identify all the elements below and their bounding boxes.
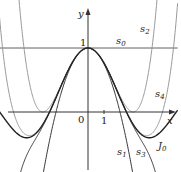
label-s2: s2	[140, 23, 150, 36]
bessel-partial-sums-chart: y x 0 1 1 s0 s2 s4 s1 s3 J0	[0, 0, 181, 172]
y-axis-arrow-icon	[86, 8, 91, 15]
label-s0: s0	[116, 35, 126, 48]
x-tick-label-1: 1	[101, 115, 107, 126]
label-s3: s3	[136, 146, 146, 159]
y-axis-label: y	[77, 8, 84, 19]
label-J0: J0	[156, 140, 167, 153]
label-s1: s1	[117, 146, 127, 159]
curves-group	[0, 0, 178, 172]
curve-J0	[0, 48, 178, 138]
x-axis-label: x	[167, 115, 173, 126]
y-tick-label-1: 1	[80, 37, 86, 48]
origin-label: 0	[78, 114, 84, 125]
label-s4: s4	[155, 88, 165, 101]
